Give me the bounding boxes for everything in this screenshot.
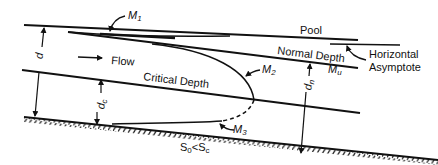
dn-dimension-top xyxy=(309,64,310,76)
m3-label: M3 xyxy=(233,123,247,137)
m3-leader xyxy=(220,124,234,130)
horizontal-asymptote-line xyxy=(330,44,400,45)
channel-bed-line xyxy=(24,117,438,160)
slope-label: S0<Sc xyxy=(180,141,210,155)
m1-label: M1 xyxy=(128,9,142,23)
horizontal-asymptote-label-1: Horizontal xyxy=(369,48,419,60)
normal-depth-label: Normal Depth xyxy=(277,44,346,64)
flow-label: Flow xyxy=(111,54,135,68)
dn-label: dn xyxy=(301,78,316,91)
gradually-varied-flow-diagram: Pool M1 Normal Depth Horizontal Asymptot… xyxy=(0,0,438,165)
m2-leader xyxy=(246,70,260,76)
dc-label: dc xyxy=(94,98,109,110)
m3-dashed-curve xyxy=(222,100,254,121)
d-label: d xyxy=(33,51,46,59)
m3-curve xyxy=(112,121,222,124)
d-dimension-top xyxy=(42,28,44,47)
m2-label: M2 xyxy=(262,63,276,77)
asymptote-leader xyxy=(347,46,366,60)
dn-dimension-bottom xyxy=(301,92,306,153)
horizontal-asymptote-label-2: Asymptote xyxy=(369,61,421,73)
pool-label: Pool xyxy=(300,24,322,36)
d-dimension-bottom xyxy=(35,72,39,116)
flow-arrow xyxy=(78,57,102,58)
